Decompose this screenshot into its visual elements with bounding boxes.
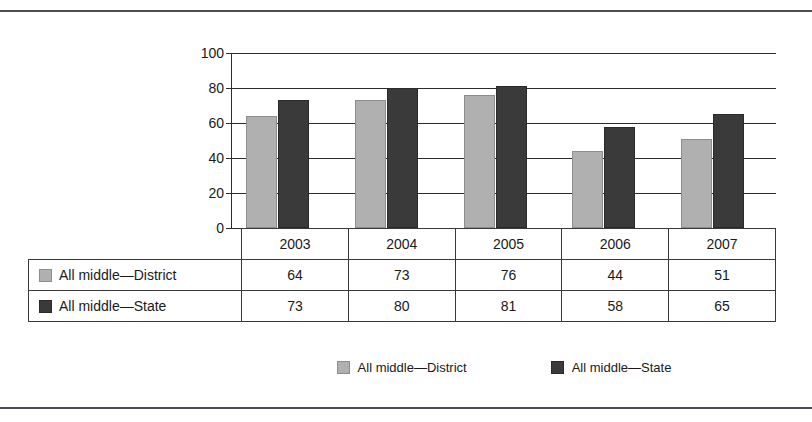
- bar-2005-district: [464, 95, 495, 228]
- table-row-label-text: All middle—State: [59, 298, 166, 314]
- top-divider-rule: [0, 10, 812, 12]
- table-cell-2003: 64: [242, 260, 349, 291]
- y-axis-tick-label: 40: [178, 151, 224, 165]
- table-row-label: All middle—District: [29, 260, 242, 291]
- bar-2007-state: [713, 114, 744, 228]
- bar-2007-district: [681, 139, 712, 228]
- table-year-header-2007: 2007: [669, 229, 776, 260]
- bar-2003-state: [278, 100, 309, 228]
- y-axis-tick-label: 20: [178, 186, 224, 200]
- y-axis-tick-label: 80: [178, 81, 224, 95]
- light-swatch-icon: [337, 361, 350, 374]
- table-row-label: All middle—State: [29, 291, 242, 322]
- table-cell-2004: 80: [348, 291, 455, 322]
- data-table: 20032004200520062007All middle—District6…: [28, 228, 776, 322]
- light-swatch-icon: [39, 269, 52, 282]
- bar-group: [450, 53, 559, 228]
- legend-item-label: All middle—District: [358, 360, 467, 375]
- bar-2006-state: [604, 127, 635, 229]
- bottom-divider-rule: [0, 407, 812, 409]
- bar-2003-district: [246, 116, 277, 228]
- y-axis-labels: 020406080100: [172, 53, 224, 228]
- bar-group: [667, 53, 776, 228]
- table-cell-2005: 76: [455, 260, 562, 291]
- y-axis-tick-label: 60: [178, 116, 224, 130]
- table-cell-2007: 65: [669, 291, 776, 322]
- legend-item-label: All middle—State: [572, 360, 672, 375]
- chart-figure: 020406080100 20032004200520062007All mid…: [0, 0, 812, 422]
- data-table-body: 20032004200520062007All middle—District6…: [29, 229, 776, 322]
- legend-item: All middle—State: [551, 360, 672, 375]
- table-year-header-2003: 2003: [242, 229, 349, 260]
- table-row-label-text: All middle—District: [59, 267, 176, 283]
- table-year-header-2006: 2006: [562, 229, 669, 260]
- bar-group: [558, 53, 667, 228]
- table-cell-2003: 73: [242, 291, 349, 322]
- table-row: All middle—State7380815865: [29, 291, 776, 322]
- table-cell-2006: 58: [562, 291, 669, 322]
- table-cell-2004: 73: [348, 260, 455, 291]
- bar-2004-district: [355, 100, 386, 228]
- plot-area: [232, 53, 776, 228]
- dark-swatch-icon: [39, 300, 52, 313]
- bar-2006-district: [572, 151, 603, 228]
- bar-group: [341, 53, 450, 228]
- table-cell-2007: 51: [669, 260, 776, 291]
- table-cell-2005: 81: [455, 291, 562, 322]
- table-row: All middle—District6473764451: [29, 260, 776, 291]
- table-cell-2006: 44: [562, 260, 669, 291]
- dark-swatch-icon: [551, 361, 564, 374]
- y-axis-tick-label: 100: [178, 46, 224, 60]
- table-year-header-2004: 2004: [348, 229, 455, 260]
- legend-item: All middle—District: [337, 360, 467, 375]
- chart-legend: All middle—DistrictAll middle—State: [232, 360, 776, 375]
- bar-2004-state: [387, 88, 418, 228]
- bar-2005-state: [496, 86, 527, 228]
- table-corner-cell: [29, 229, 242, 260]
- table-year-header-2005: 2005: [455, 229, 562, 260]
- table-year-header-row: 20032004200520062007: [29, 229, 776, 260]
- bar-group: [232, 53, 341, 228]
